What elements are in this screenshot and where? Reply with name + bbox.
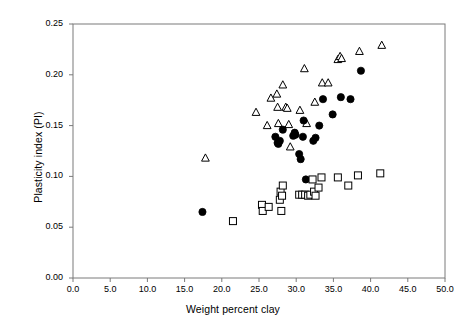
data-point [296,106,304,113]
data-point [292,131,299,138]
data-point [301,65,309,72]
x-tick-label: 0.0 [53,284,93,294]
data-point [377,170,384,177]
data-point [297,156,304,163]
data-point [378,41,386,48]
data-point [300,117,307,124]
data-point [312,192,319,199]
x-tick-label: 5.0 [90,284,130,294]
data-point [302,176,309,183]
data-point [274,119,282,126]
data-point [316,122,323,129]
y-tick-label: 0.20 [23,69,63,79]
data-point [347,96,354,103]
data-point [276,137,283,144]
data-point [354,172,361,179]
x-tick-label: 20.0 [202,284,242,294]
data-point [279,81,287,88]
data-point [265,203,272,210]
y-tick-label: 0.05 [23,221,63,231]
x-tick-label: 35.0 [313,284,353,294]
x-axis-label: Weight percent clay [0,303,466,315]
y-tick-label: 0.15 [23,120,63,130]
data-point [279,192,286,199]
scatter-plot-figure: Weight percent clay Plasticity index (PI… [0,0,466,330]
data-point [315,184,322,191]
data-point [274,103,282,110]
data-point [229,218,236,225]
data-point [299,133,306,140]
data-point [334,174,341,181]
data-point [329,111,336,118]
x-tick-label: 25.0 [239,284,279,294]
data-point [345,182,352,189]
data-point [318,174,325,181]
data-point [285,120,293,127]
data-point [202,154,210,161]
data-point [319,96,326,103]
data-point [278,207,285,214]
data-point [279,126,286,133]
data-point [324,79,332,86]
data-point [309,176,316,183]
data-point [311,98,319,105]
data-point [356,47,364,54]
x-tick-label: 30.0 [276,284,316,294]
x-tick-label: 40.0 [351,284,391,294]
data-point [337,94,344,101]
x-tick-label: 45.0 [388,284,428,294]
y-tick-label: 0.25 [23,18,63,28]
data-point [312,134,319,141]
data-point [273,90,281,97]
plot-frame [73,24,445,278]
series-triangles [202,41,386,161]
x-tick-label: 10.0 [127,284,167,294]
y-tick-label: 0.10 [23,170,63,180]
x-tick-label: 15.0 [165,284,205,294]
data-point [252,108,260,115]
y-tick-label: 0.00 [23,272,63,282]
plot-canvas [0,0,466,330]
data-point [279,182,286,189]
data-point [357,67,364,74]
data-point [263,121,271,128]
x-tick-label: 50.0 [425,284,465,294]
data-point [199,208,206,215]
data-point [286,143,294,150]
